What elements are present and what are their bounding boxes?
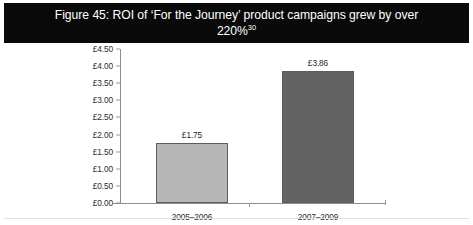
- figure-title-line-1: Figure 45: ROI of ‘For the Journey’ prod…: [55, 8, 418, 22]
- chart-plot-area: £4.50£4.00£3.50£3.00£2.50£2.00£1.50£1.00…: [0, 43, 473, 225]
- figure-title-text: Figure 45: ROI of ‘For the Journey’ prod…: [55, 7, 418, 39]
- x-axis-middle-tick: [249, 203, 250, 207]
- x-axis-end-tick: [385, 200, 386, 205]
- y-axis-tick-label: £2.50: [0, 112, 113, 122]
- y-axis-labels: £4.50£4.00£3.50£3.00£2.50£2.00£1.50£1.00…: [0, 43, 113, 225]
- y-axis-tick-label: £1.50: [0, 147, 113, 157]
- bar-value-label: £1.75: [182, 130, 202, 140]
- y-axis-tick-label: £0.50: [0, 181, 113, 191]
- x-axis-category-label: 2007–2009: [298, 212, 339, 222]
- y-axis-tick-label: £1.00: [0, 164, 113, 174]
- y-axis-tick-label: £0.00: [0, 198, 113, 208]
- figure-container: Figure 45: ROI of ‘For the Journey’ prod…: [0, 0, 473, 225]
- y-axis-tick-label: £3.00: [0, 95, 113, 105]
- y-axis-tick-label: £2.00: [0, 130, 113, 140]
- figure-title-line-2: 220%: [217, 24, 248, 38]
- bar-value-label: £3.86: [308, 58, 328, 68]
- bar: [282, 71, 354, 203]
- y-axis-tick-label: £3.50: [0, 78, 113, 88]
- bottom-divider: [4, 218, 469, 219]
- x-axis-category-label: 2005–2006: [172, 212, 213, 222]
- y-axis-tick-label: £4.00: [0, 61, 113, 71]
- y-axis-tick-label: £4.50: [0, 44, 113, 54]
- y-axis-line: [120, 49, 121, 204]
- figure-title-footnote: 30: [248, 23, 256, 32]
- bar: [156, 143, 228, 203]
- figure-title-banner: Figure 45: ROI of ‘For the Journey’ prod…: [4, 3, 469, 43]
